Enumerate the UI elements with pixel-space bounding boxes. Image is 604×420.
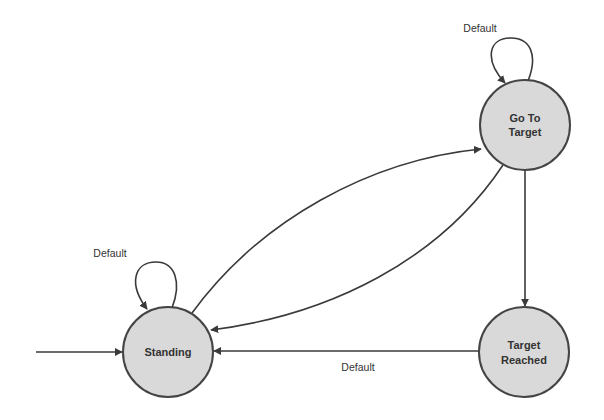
state-target-reached-label-line1: Target xyxy=(508,339,541,351)
go-to-target-to-standing-arrow xyxy=(211,165,503,330)
target-reached-to-standing-label: Default xyxy=(341,361,374,373)
go-to-target-self-loop-arrow xyxy=(491,38,532,83)
standing-self-loop-arrow xyxy=(136,262,177,309)
state-diagram: Default Default Default Standing Go To T… xyxy=(0,0,604,420)
state-standing: Standing xyxy=(123,307,213,397)
state-target-reached: Target Reached xyxy=(479,307,569,397)
go-to-target-self-loop-label: Default xyxy=(463,22,496,34)
state-standing-label: Standing xyxy=(144,346,191,358)
state-target-reached-label-line2: Reached xyxy=(501,354,547,366)
state-go-to-target: Go To Target xyxy=(480,80,570,170)
state-target-reached-circle xyxy=(479,307,569,397)
standing-to-go-to-target-arrow xyxy=(192,149,481,313)
state-go-to-target-label-line2: Target xyxy=(509,126,542,138)
state-go-to-target-circle xyxy=(480,80,570,170)
state-go-to-target-label-line1: Go To xyxy=(510,112,541,124)
standing-self-loop-label: Default xyxy=(93,247,126,259)
